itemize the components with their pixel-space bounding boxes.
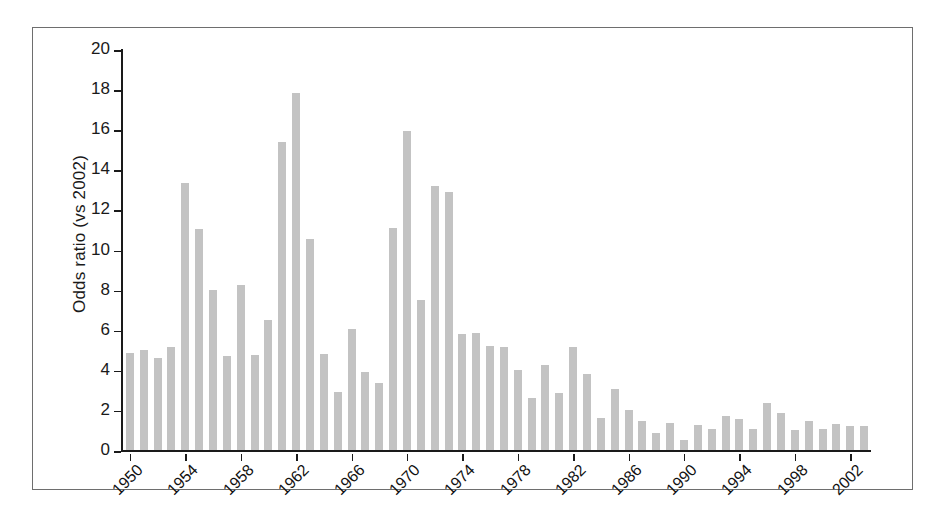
x-tick-label: 1958 <box>211 461 258 508</box>
bar <box>209 290 217 450</box>
bar <box>334 392 342 450</box>
bar <box>167 347 175 450</box>
x-tick <box>573 454 574 461</box>
x-tick <box>795 454 796 461</box>
y-tick-label: 20 <box>91 39 110 59</box>
y-tick-line <box>114 90 121 92</box>
bar <box>791 430 799 450</box>
x-tick <box>518 454 519 461</box>
bar <box>417 300 425 450</box>
bar <box>625 410 633 450</box>
bar <box>569 347 577 450</box>
y-tick-line <box>114 411 121 413</box>
y-tick-line <box>114 50 121 52</box>
bar <box>638 421 646 450</box>
bar <box>306 239 314 450</box>
bar <box>860 426 868 450</box>
bar <box>472 333 480 450</box>
y-tick-line <box>114 331 121 333</box>
y-tick-line <box>114 371 121 373</box>
bar <box>223 356 231 450</box>
y-tick-label: 10 <box>91 240 110 260</box>
y-axis-label: Odds ratio (vs 2002) <box>70 104 90 364</box>
x-tick-label: 2002 <box>820 461 867 508</box>
x-tick <box>407 454 408 461</box>
bar <box>251 355 259 450</box>
x-tick <box>739 454 740 461</box>
bar <box>722 416 730 450</box>
y-tick-line <box>114 291 121 293</box>
bar <box>126 353 134 450</box>
bar <box>777 413 785 450</box>
bar <box>832 424 840 450</box>
x-tick-label: 1954 <box>155 461 202 508</box>
figure-frame: Odds ratio (vs 2002) 02468101214161820 1… <box>32 27 913 490</box>
y-tick-label: 16 <box>91 119 110 139</box>
bar <box>264 320 272 450</box>
bar <box>361 372 369 450</box>
bar <box>846 426 854 450</box>
x-tick <box>296 454 297 461</box>
bar <box>763 403 771 450</box>
bar <box>819 429 827 450</box>
x-tick-label: 1998 <box>765 461 812 508</box>
plot-area: 02468101214161820 1950195419581962196619… <box>121 49 871 452</box>
x-tick-label: 1950 <box>100 461 147 508</box>
x-tick <box>185 454 186 461</box>
x-tick <box>684 454 685 461</box>
y-tick-label: 14 <box>91 159 110 179</box>
y-tick-line <box>114 130 121 132</box>
bar <box>181 183 189 450</box>
bar <box>611 389 619 450</box>
y-tick-label: 12 <box>91 199 110 219</box>
bar <box>445 192 453 450</box>
x-tick <box>352 454 353 461</box>
y-tick-label: 8 <box>101 280 110 300</box>
bar <box>597 418 605 450</box>
y-tick-line <box>114 170 121 172</box>
y-tick-label: 4 <box>101 360 110 380</box>
bar <box>555 393 563 450</box>
bar <box>541 365 549 450</box>
bar <box>431 186 439 450</box>
bar <box>652 433 660 450</box>
bar <box>528 398 536 450</box>
x-tick-label: 1994 <box>709 461 756 508</box>
x-tick-label: 1970 <box>377 461 424 508</box>
x-tick <box>241 454 242 461</box>
x-tick <box>629 454 630 461</box>
bar <box>292 93 300 450</box>
y-tick-label: 6 <box>101 320 110 340</box>
x-tick <box>462 454 463 461</box>
bar <box>403 131 411 450</box>
bar <box>666 423 674 450</box>
x-tick-label: 1974 <box>432 461 479 508</box>
bar <box>680 440 688 450</box>
bar <box>375 383 383 450</box>
x-tick-label: 1978 <box>488 461 535 508</box>
y-tick-label: 0 <box>101 440 110 460</box>
bar <box>140 350 148 450</box>
bar <box>514 370 522 450</box>
bar <box>348 329 356 450</box>
x-tick-label: 1962 <box>266 461 313 508</box>
x-tick-label: 1982 <box>543 461 590 508</box>
figure-root: Odds ratio (vs 2002) 02468101214161820 1… <box>0 0 947 519</box>
bar <box>486 346 494 450</box>
bar-series <box>123 49 871 450</box>
x-tick-label: 1966 <box>322 461 369 508</box>
bar <box>735 419 743 450</box>
bar <box>805 421 813 450</box>
bar <box>154 358 162 450</box>
y-tick-line <box>114 451 121 453</box>
x-axis-ticks: 1950195419581962196619701974197819821986… <box>121 452 871 454</box>
bar <box>694 425 702 450</box>
bar <box>389 228 397 450</box>
y-tick-line <box>114 251 121 253</box>
bar <box>320 354 328 450</box>
y-tick-label: 2 <box>101 400 110 420</box>
y-tick-line <box>114 210 121 212</box>
bar <box>458 334 466 450</box>
x-tick <box>850 454 851 461</box>
bar <box>278 142 286 450</box>
